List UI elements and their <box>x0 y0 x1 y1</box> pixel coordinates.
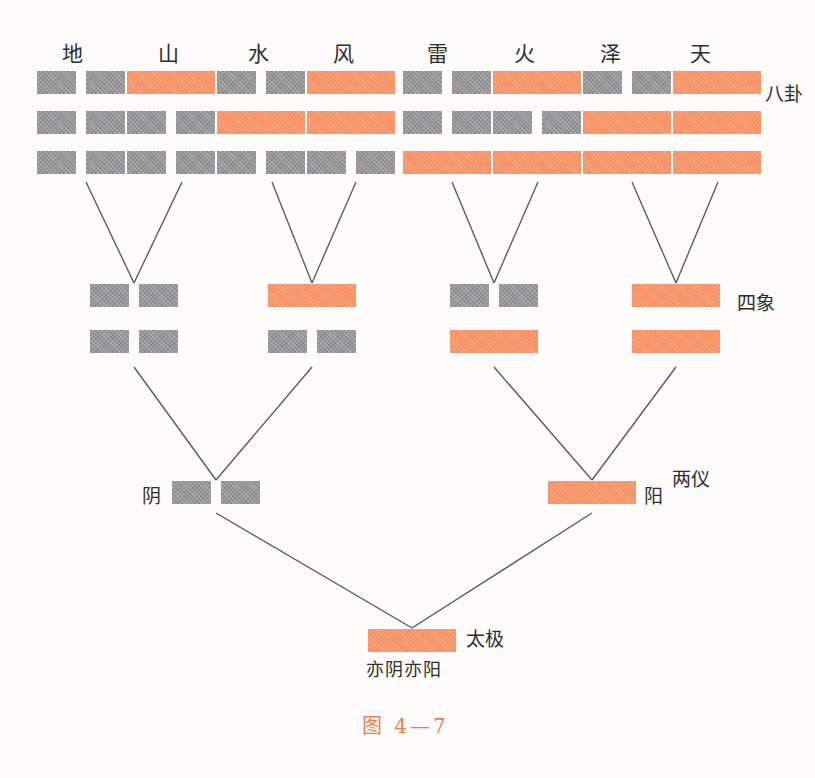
yin-segment-0 <box>37 71 76 94</box>
bagua-line-0-middle <box>37 111 125 134</box>
yin-segment-0 <box>217 71 256 94</box>
bagua-line-0-bottom <box>37 151 125 174</box>
yin-segment-1 <box>221 481 260 504</box>
yang-segment <box>673 111 761 134</box>
bagua-name-2: 水 <box>248 44 269 65</box>
yin-segment-1 <box>632 71 671 94</box>
yin-segment-1 <box>86 71 125 94</box>
yin-segment-1 <box>139 330 178 353</box>
yin-segment-0 <box>127 151 166 174</box>
yang-segment <box>217 111 305 134</box>
yin-segment-0 <box>493 111 532 134</box>
bagua-name-6: 泽 <box>600 44 621 65</box>
yin-segment-1 <box>176 111 215 134</box>
yin-segment-0 <box>268 330 307 353</box>
bagua-line-7-bottom <box>673 151 761 174</box>
level-label-liangyi: 两仪 <box>672 468 692 491</box>
bagua-line-6-bottom <box>583 151 671 174</box>
yin-segment-0 <box>403 71 442 94</box>
yin-segment-1 <box>266 151 305 174</box>
yin-segment-0 <box>403 111 442 134</box>
bagua-line-2-top <box>217 71 305 94</box>
yin-segment-0 <box>450 284 489 307</box>
yin-segment-1 <box>542 111 581 134</box>
yang-segment <box>632 330 720 353</box>
level-label-bagua: 八卦 <box>765 83 785 106</box>
yin-segment-0 <box>90 330 129 353</box>
bagua-line-5-bottom <box>493 151 581 174</box>
yang-segment <box>127 71 215 94</box>
yin-segment-1 <box>499 284 538 307</box>
yin-segment-0 <box>37 151 76 174</box>
bagua-line-6-top <box>583 71 671 94</box>
bagua-line-7-middle <box>673 111 761 134</box>
yang-segment <box>307 111 395 134</box>
yang-segment <box>450 330 538 353</box>
yin-segment-1 <box>176 151 215 174</box>
yin-segment-1 <box>86 151 125 174</box>
yin-segment-1 <box>139 284 178 307</box>
yang-segment <box>368 629 456 652</box>
yang-segment <box>493 151 581 174</box>
bagua-line-4-top <box>403 71 491 94</box>
sixiang-3-bottom <box>632 330 720 353</box>
yin-segment-1 <box>266 71 305 94</box>
figure-caption: 图 4—7 <box>362 710 449 739</box>
bagua-line-3-bottom <box>307 151 395 174</box>
liangyi-bar-yang <box>548 481 636 504</box>
figure-canvas: 地 山 水 风 雷 火 泽 天 八卦 四象 阴 阳 两仪 太极 亦阴亦阳 <box>0 0 815 778</box>
bagua-line-2-bottom <box>217 151 305 174</box>
yang-segment <box>673 71 761 94</box>
bagua-name-5: 火 <box>514 44 535 65</box>
bagua-name-0: 地 <box>62 44 83 65</box>
taiji-bar <box>368 629 456 652</box>
bagua-line-4-bottom <box>403 151 491 174</box>
yang-segment <box>268 284 356 307</box>
bagua-line-1-middle <box>127 111 215 134</box>
sixiang-1-bottom <box>268 330 356 353</box>
bagua-line-0-top <box>37 71 125 94</box>
yin-segment-0 <box>217 151 256 174</box>
yin-segment-0 <box>37 111 76 134</box>
sixiang-0-bottom <box>90 330 178 353</box>
sixiang-0-top <box>90 284 178 307</box>
liangyi-label-yang: 阳 <box>644 487 663 506</box>
bagua-line-3-middle <box>307 111 395 134</box>
yin-segment-0 <box>583 71 622 94</box>
bagua-name-1: 山 <box>158 44 179 65</box>
bagua-name-7: 天 <box>690 44 711 65</box>
liangyi-bar-yin <box>172 481 260 504</box>
yang-segment <box>403 151 491 174</box>
yin-segment-0 <box>90 284 129 307</box>
yang-segment <box>632 284 720 307</box>
yin-segment-0 <box>127 111 166 134</box>
sixiang-1-top <box>268 284 356 307</box>
bagua-line-3-top <box>307 71 395 94</box>
yin-segment-1 <box>452 71 491 94</box>
bagua-line-5-middle <box>493 111 581 134</box>
bagua-name-3: 风 <box>333 44 354 65</box>
bagua-line-6-middle <box>583 111 671 134</box>
yin-segment-1 <box>356 151 395 174</box>
yin-segment-0 <box>307 151 346 174</box>
yin-segment-1 <box>86 111 125 134</box>
sixiang-2-bottom <box>450 330 538 353</box>
bagua-line-1-bottom <box>127 151 215 174</box>
liangyi-label-yin: 阴 <box>142 487 161 506</box>
bagua-line-4-middle <box>403 111 491 134</box>
level-label-taiji: 太极 <box>466 628 486 651</box>
bagua-line-7-top <box>673 71 761 94</box>
yang-segment <box>673 151 761 174</box>
yang-segment <box>493 71 581 94</box>
yang-segment <box>583 151 671 174</box>
bagua-line-1-top <box>127 71 215 94</box>
level-label-sixiang: 四象 <box>737 292 757 315</box>
sixiang-2-top <box>450 284 538 307</box>
taiji-sub-label: 亦阴亦阳 <box>366 661 442 679</box>
yang-segment <box>548 481 636 504</box>
yang-segment <box>583 111 671 134</box>
yin-segment-0 <box>172 481 211 504</box>
sixiang-3-top <box>632 284 720 307</box>
yin-segment-1 <box>317 330 356 353</box>
bagua-line-5-top <box>493 71 581 94</box>
